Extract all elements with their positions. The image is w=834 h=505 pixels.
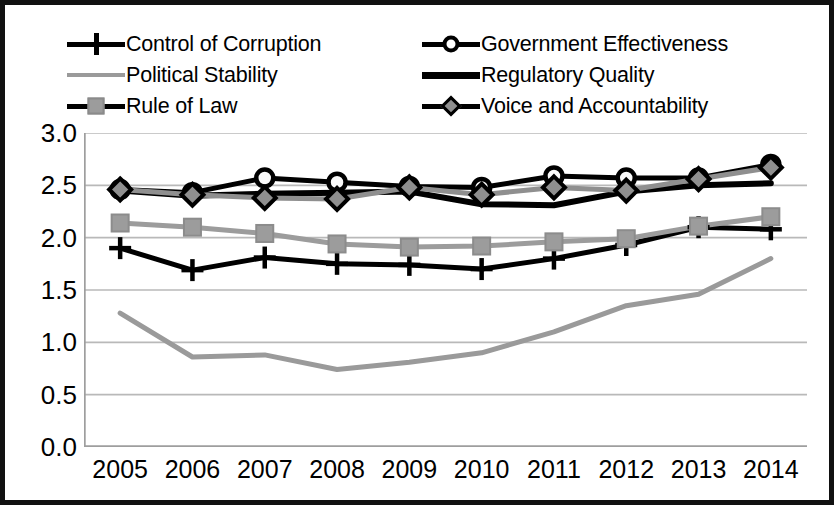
legend-item-government-effectiveness: Government Effectiveness xyxy=(422,31,728,57)
chart-canvas: Control of Corruption Government Effecti… xyxy=(5,5,829,500)
circle-marker-icon xyxy=(256,170,273,187)
y-tick-label: 2.5 xyxy=(41,172,77,198)
series-political-stability xyxy=(120,259,771,370)
x-tick-label: 2011 xyxy=(527,457,581,482)
x-tick-label: 2010 xyxy=(454,457,510,482)
legend-item-political-stability: Political Stability xyxy=(67,62,278,88)
legend-label: Control of Corruption xyxy=(126,32,321,57)
x-tick-label: 2014 xyxy=(743,457,799,482)
legend-label: Rule of Law xyxy=(126,94,237,119)
square-marker-icon xyxy=(618,230,635,247)
legend-key-voice-and-accountability xyxy=(422,96,480,116)
chart-legend: Control of Corruption Government Effecti… xyxy=(67,31,807,123)
legend-key-regulatory-quality xyxy=(422,65,480,85)
chart-frame: Control of Corruption Government Effecti… xyxy=(0,0,834,505)
y-tick-label: 3.0 xyxy=(41,120,77,146)
circle-marker-icon xyxy=(443,36,460,53)
series-line xyxy=(120,259,771,370)
legend-label: Government Effectiveness xyxy=(481,32,728,57)
legend-item-rule-of-law: Rule of Law xyxy=(67,93,237,119)
series-line xyxy=(120,217,771,247)
legend-key-government-effectiveness xyxy=(422,34,480,54)
legend-label: Regulatory Quality xyxy=(481,63,654,88)
y-tick-label: 2.0 xyxy=(41,225,77,251)
legend-key-control-of-corruption xyxy=(67,34,125,54)
square-marker-icon xyxy=(88,98,105,115)
x-tick-label: 2008 xyxy=(309,457,365,482)
series-line xyxy=(120,168,771,199)
x-tick-label: 2013 xyxy=(671,457,727,482)
diamond-marker-icon xyxy=(440,95,461,116)
diamond-marker-icon xyxy=(254,187,276,209)
square-marker-icon xyxy=(329,235,346,252)
square-marker-icon xyxy=(401,239,418,256)
series-rule-of-law xyxy=(120,217,771,247)
x-tick-label: 2007 xyxy=(237,457,293,482)
x-tick-label: 2006 xyxy=(165,457,221,482)
y-axis-labels: 3.02.52.01.51.00.50.0 xyxy=(5,123,77,463)
x-tick-label: 2005 xyxy=(92,457,148,482)
square-marker-icon xyxy=(112,215,129,232)
y-tick-label: 1.5 xyxy=(41,277,77,303)
legend-label: Political Stability xyxy=(126,63,278,88)
plus-marker-icon xyxy=(85,33,107,55)
legend-key-rule-of-law xyxy=(67,96,125,116)
plot-area xyxy=(84,133,807,447)
legend-item-regulatory-quality: Regulatory Quality xyxy=(422,62,654,88)
y-tick-label: 0.5 xyxy=(41,382,77,408)
legend-item-control-of-corruption: Control of Corruption xyxy=(67,31,321,57)
x-tick-label: 2009 xyxy=(382,457,438,482)
chart-svg xyxy=(84,133,807,447)
diamond-marker-icon xyxy=(109,179,131,201)
legend-item-voice-and-accountability: Voice and Accountability xyxy=(422,93,708,119)
square-marker-icon xyxy=(545,233,562,250)
square-marker-icon xyxy=(256,225,273,242)
square-marker-icon xyxy=(473,238,490,255)
series-voice-and-accountability xyxy=(120,168,771,199)
square-marker-icon xyxy=(184,219,201,236)
square-marker-icon xyxy=(762,208,779,225)
square-marker-icon xyxy=(690,218,707,235)
x-tick-label: 2012 xyxy=(598,457,654,482)
y-tick-label: 1.0 xyxy=(41,329,77,355)
x-axis-labels: 2005200620072008200920102011201220132014 xyxy=(84,457,807,495)
legend-key-political-stability xyxy=(67,65,125,85)
legend-label: Voice and Accountability xyxy=(481,94,708,119)
y-tick-label: 0.0 xyxy=(41,434,77,460)
